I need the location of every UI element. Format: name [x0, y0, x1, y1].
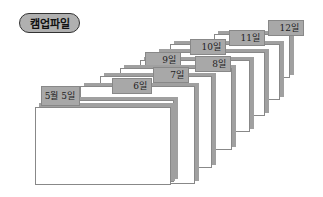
folder-tab-12: 12일 — [268, 20, 304, 36]
folder-tab-11: 11일 — [229, 30, 265, 46]
title-badge: 캠업파일 — [19, 13, 80, 33]
folder-tab-6: 6일 — [112, 78, 152, 94]
folder-tab-10: 10일 — [190, 39, 226, 55]
folder-tab-7: 7일 — [153, 67, 189, 83]
folder-card-front — [35, 107, 171, 185]
folder-tab-8: 8일 — [195, 56, 231, 72]
folder-tab-5: 5월 5일 — [41, 86, 80, 106]
folder-tab-9: 9일 — [145, 52, 181, 68]
